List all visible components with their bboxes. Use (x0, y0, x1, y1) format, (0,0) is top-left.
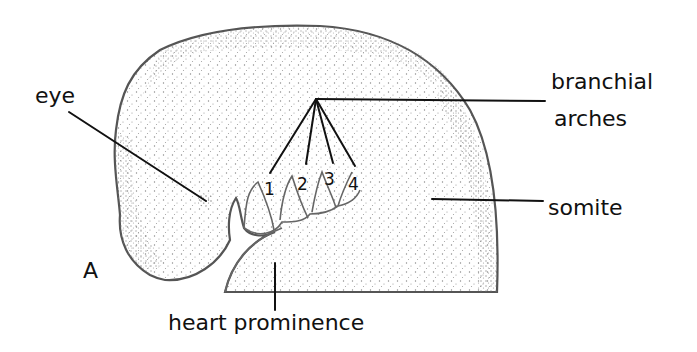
arch-number-2: 2 (297, 174, 308, 194)
label-heart-prominence: heart prominence (168, 310, 364, 335)
label-arches: arches (554, 106, 627, 131)
embryo-diagram: eye branchial arches somite heart promin… (0, 0, 697, 352)
arch-number-1: 1 (264, 179, 275, 199)
label-eye: eye (35, 83, 75, 108)
arch-number-3: 3 (324, 169, 335, 189)
arch-number-4: 4 (348, 174, 359, 194)
panel-label: A (83, 258, 98, 283)
label-branchial: branchial (551, 69, 653, 94)
label-somite: somite (548, 195, 623, 220)
